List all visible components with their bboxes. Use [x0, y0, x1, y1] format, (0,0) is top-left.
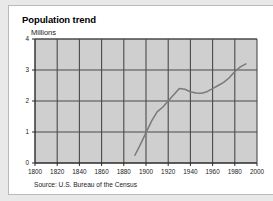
x-tick-label: 1820 — [50, 168, 65, 175]
y-tick-label: 0 — [25, 159, 29, 166]
y-tick-label: 4 — [25, 35, 29, 42]
population-trend-chart: 1800182018401860188019001920194019601980… — [9, 6, 273, 196]
source-note: Source: U.S. Bureau of the Census — [34, 181, 137, 188]
x-tick-label: 1860 — [94, 168, 109, 175]
x-tick-label: 1900 — [139, 168, 154, 175]
y-axis-tick-labels: 01234 — [25, 35, 29, 166]
figure-card: Population trend Millions 18001820184018… — [8, 5, 273, 195]
y-tick-label: 1 — [25, 128, 29, 135]
x-tick-label: 1960 — [205, 168, 220, 175]
x-tick-label: 1980 — [228, 168, 243, 175]
x-tick-label: 1920 — [161, 168, 176, 175]
x-axis-tick-labels: 1800182018401860188019001920194019601980… — [28, 168, 265, 175]
y-tick-label: 3 — [25, 66, 29, 73]
y-tick-label: 2 — [25, 97, 29, 104]
x-tick-label: 1840 — [72, 168, 87, 175]
x-tick-label: 1940 — [183, 168, 198, 175]
x-tick-label: 1880 — [117, 168, 132, 175]
x-tick-label: 2000 — [250, 168, 265, 175]
x-tick-label: 1800 — [28, 168, 43, 175]
